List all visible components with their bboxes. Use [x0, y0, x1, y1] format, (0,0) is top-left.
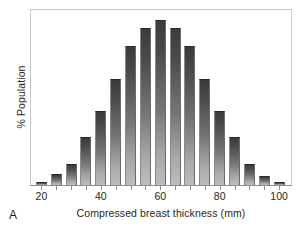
- x-axis-tick: [249, 186, 250, 190]
- x-axis-tick-label: 100: [264, 190, 294, 202]
- bar: [80, 137, 91, 185]
- y-axis-title: % Population: [15, 27, 27, 167]
- bar: [244, 164, 255, 185]
- bar: [170, 28, 181, 186]
- bar: [199, 79, 210, 185]
- bar: [184, 46, 195, 185]
- bars-container: [31, 10, 291, 185]
- x-axis-tick: [175, 186, 176, 190]
- x-axis-tick-label: 20: [26, 190, 56, 202]
- bar: [140, 28, 151, 186]
- panel-label: A: [9, 208, 17, 222]
- bar: [125, 46, 136, 185]
- x-axis-tick: [190, 186, 191, 190]
- x-axis-tick: [71, 186, 72, 190]
- histogram-figure: % Population 20406080100 Compressed brea…: [0, 0, 304, 231]
- x-axis-title: Compressed breast thickness (mm): [30, 207, 292, 219]
- bar: [214, 111, 225, 185]
- x-axis-tick: [56, 186, 57, 190]
- bar: [66, 164, 77, 185]
- x-axis-tick-label: 60: [145, 190, 175, 202]
- x-axis-tick: [131, 186, 132, 190]
- bar: [51, 174, 62, 185]
- bar: [259, 176, 270, 185]
- bar: [229, 137, 240, 185]
- x-axis-tick-label: 40: [86, 190, 116, 202]
- bar: [155, 20, 166, 185]
- bar: [95, 111, 106, 185]
- x-axis-tick: [235, 186, 236, 190]
- bar: [110, 79, 121, 185]
- x-axis-tick-label: 80: [205, 190, 235, 202]
